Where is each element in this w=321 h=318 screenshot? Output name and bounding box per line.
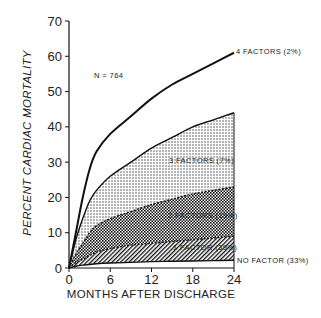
x-ticks: 06121824	[65, 268, 241, 287]
y-tick-label: 60	[48, 49, 62, 64]
x-tick-label: 6	[107, 272, 114, 287]
x-tick-label: 24	[227, 272, 241, 287]
label-no-factor: NO FACTOR (33%)	[237, 256, 309, 265]
y-tick-label: 70	[48, 14, 62, 29]
label-3-factors: 3 FACTORS (7%)	[169, 156, 234, 165]
y-axis-title: PERCENT CARDIAC MORTALITY	[21, 49, 33, 235]
sample-size-annotation: N = 764	[94, 71, 123, 80]
x-axis-title: MONTHS AFTER DISCHARGE	[67, 288, 235, 300]
label-2-factors: 2 FACTORS (19%)	[168, 211, 238, 220]
x-tick-label: 0	[65, 272, 72, 287]
y-tick-label: 0	[55, 261, 62, 276]
y-tick-label: 40	[48, 119, 62, 134]
y-tick-label: 10	[48, 225, 62, 240]
label-1-factor: 1 FACTOR (39%)	[173, 243, 237, 252]
y-tick-label: 20	[48, 190, 62, 205]
y-ticks: 010203040506070	[48, 14, 69, 276]
y-tick-label: 50	[48, 84, 62, 99]
x-tick-label: 18	[186, 272, 200, 287]
label-4-factors: 4 FACTORS (2%)	[236, 47, 301, 56]
x-tick-label: 12	[144, 272, 158, 287]
mortality-chart: 010203040506070 06121824 N = 764 4 FACTO…	[0, 0, 321, 318]
y-tick-label: 30	[48, 155, 62, 170]
